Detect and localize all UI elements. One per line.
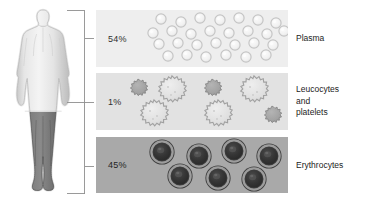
grouping-bracket (66, 9, 94, 195)
blood-composition-diagram: 54% (0, 0, 365, 203)
label-erythrocytes: Erythrocytes (296, 160, 343, 172)
band-leucocytes-percent: 1% (108, 97, 121, 107)
band-plasma: 54% (96, 10, 288, 67)
band-erythrocytes: 45% (96, 137, 288, 193)
band-plasma-percent: 54% (108, 34, 127, 44)
label-plasma: Plasma (296, 33, 324, 45)
label-leucocytes: Leucocytes and platelets (296, 84, 339, 119)
spiky-leucocytes (96, 73, 288, 130)
leucocyte (141, 76, 269, 126)
band-leucocytes: 1% (96, 73, 288, 130)
band-erythrocytes-percent: 45% (108, 160, 127, 170)
human-body-silhouette (12, 8, 74, 196)
